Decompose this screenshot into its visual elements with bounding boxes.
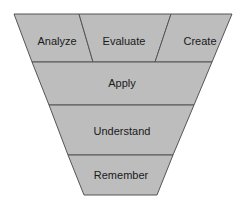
- label-evaluate: Evaluate: [103, 35, 146, 47]
- label-analyze: Analyze: [37, 35, 76, 47]
- inverted-pyramid-diagram: Analyze Evaluate Create Apply Understand…: [0, 0, 244, 212]
- label-create: Create: [183, 35, 216, 47]
- layer-remember: Remember: [68, 155, 173, 195]
- label-remember: Remember: [94, 169, 149, 181]
- label-apply: Apply: [108, 77, 136, 89]
- label-understand: Understand: [94, 125, 151, 137]
- layer-apply: Apply: [32, 62, 212, 105]
- layer-understand: Understand: [49, 105, 194, 155]
